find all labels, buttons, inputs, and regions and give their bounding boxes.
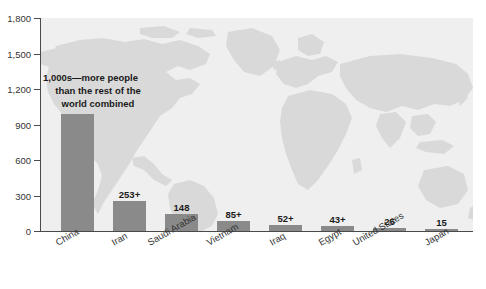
y-tick-900 bbox=[34, 125, 40, 126]
bar-iraq[interactable] bbox=[269, 225, 302, 231]
y-tick-300 bbox=[34, 196, 40, 197]
annotation-line-3: world combined bbox=[43, 98, 153, 111]
bar-value-egypt: 43+ bbox=[321, 215, 354, 225]
y-tick-0 bbox=[34, 231, 40, 232]
y-tick-label-1200: 1,200 bbox=[7, 85, 31, 95]
plot-area bbox=[40, 18, 473, 231]
y-tick-1500 bbox=[34, 54, 40, 55]
bar-value-saudi-arabia: 148 bbox=[165, 203, 198, 213]
bar-value-vietnam: 85+ bbox=[217, 210, 250, 220]
y-axis-line bbox=[40, 18, 41, 231]
annotation-line-2: than the rest of the bbox=[43, 85, 153, 98]
x-axis-line bbox=[40, 231, 473, 232]
y-tick-label-0: 0 bbox=[26, 227, 31, 237]
x-label-iraq: Iraq bbox=[268, 231, 287, 247]
china-annotation: 1,000s—more people than the rest of the … bbox=[43, 72, 153, 110]
y-tick-label-1500: 1,500 bbox=[7, 50, 31, 60]
y-tick-label-1800: 1,800 bbox=[7, 14, 31, 24]
bar-china[interactable] bbox=[61, 114, 94, 231]
bar-value-iraq: 52+ bbox=[269, 214, 302, 224]
bar-value-iran: 253+ bbox=[113, 190, 146, 200]
y-axis-tick-labels: 0 300 600 900 1,200 1,500 1,800 bbox=[0, 0, 31, 289]
world-map-watermark-icon bbox=[40, 18, 473, 231]
y-tick-label-900: 900 bbox=[15, 121, 31, 131]
y-tick-600 bbox=[34, 160, 40, 161]
bar-iran[interactable] bbox=[113, 201, 146, 231]
y-tick-label-300: 300 bbox=[15, 192, 31, 202]
y-tick-1800 bbox=[34, 18, 40, 19]
y-tick-label-600: 600 bbox=[15, 156, 31, 166]
y-tick-1200 bbox=[34, 89, 40, 90]
x-label-iran: Iran bbox=[110, 231, 129, 247]
bar-chart: 0 300 600 900 1,200 1,500 1,800 253+ 148… bbox=[0, 0, 486, 289]
annotation-line-1: 1,000s—more people bbox=[43, 72, 153, 85]
